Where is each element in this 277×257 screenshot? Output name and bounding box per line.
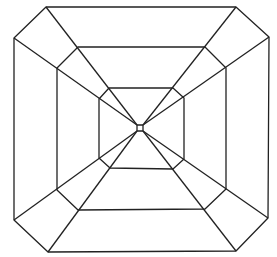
corner-ray-6 bbox=[48, 131, 137, 252]
corner-ray-4 bbox=[143, 131, 268, 218]
facet-rings bbox=[14, 7, 269, 252]
inner-facet-ring bbox=[99, 88, 184, 169]
outer-facet-ring bbox=[14, 7, 269, 252]
corner-ray-1 bbox=[14, 38, 137, 125]
corner-ray-2 bbox=[143, 7, 236, 125]
corner-ray-5 bbox=[143, 131, 236, 251]
culet-facet-ring bbox=[137, 125, 143, 131]
corner-rays bbox=[14, 7, 269, 252]
corner-ray-3 bbox=[143, 37, 269, 125]
corner-ray-7 bbox=[14, 131, 137, 220]
middle-facet-ring bbox=[57, 47, 226, 210]
step-cut-facet-diagram bbox=[0, 0, 277, 257]
